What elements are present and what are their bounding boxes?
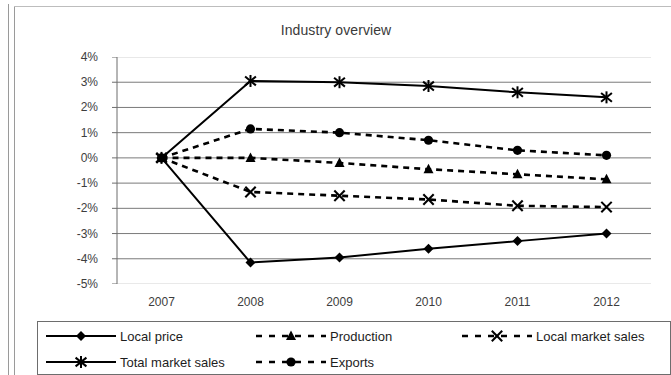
- page-border-top: [14, 6, 671, 7]
- y-axis-tick-label: 4%: [54, 50, 98, 64]
- plot-area: [101, 57, 651, 284]
- data-point-circle: [335, 128, 344, 137]
- data-point-circle: [602, 151, 611, 160]
- legend-key-circle-icon: [254, 351, 328, 373]
- x-axis-tick-label: 2008: [216, 295, 286, 309]
- x-axis-tick-label: 2007: [127, 295, 197, 309]
- legend-key-asterisk-icon: [44, 351, 118, 373]
- y-axis-tick-label: -4%: [54, 252, 98, 266]
- chart-plot-svg: [101, 57, 651, 284]
- legend-item-label: Exports: [330, 355, 374, 370]
- legend-item-total-market-sales[interactable]: Total market sales: [44, 349, 225, 375]
- legend-item-local-price[interactable]: Local price: [44, 323, 183, 349]
- legend-key-triangle-icon: [254, 325, 328, 347]
- data-point-circle: [286, 357, 295, 366]
- y-axis-tick-label: 3%: [54, 75, 98, 89]
- chart-legend: Local priceProductionLocal market sales …: [37, 321, 671, 375]
- legend-item-label: Local market sales: [536, 329, 644, 344]
- y-axis-tick-label: -2%: [54, 201, 98, 215]
- legend-item-production[interactable]: Production: [254, 323, 392, 349]
- legend-item-local-market-sales[interactable]: Local market sales: [460, 323, 644, 349]
- screenshot-page: Industry overview 4%3%2%1%0%-1%-2%-3%-4%…: [0, 0, 671, 375]
- x-axis-tick-label: 2012: [572, 295, 642, 309]
- series-exports: [157, 124, 611, 162]
- series-local-price: [157, 153, 612, 268]
- chart-container: Industry overview 4%3%2%1%0%-1%-2%-3%-4%…: [16, 8, 671, 375]
- legend-key-cross-icon: [460, 325, 534, 347]
- chart-title: Industry overview: [16, 22, 656, 38]
- y-axis-tick-label: 2%: [54, 100, 98, 114]
- data-point-circle: [246, 124, 255, 133]
- x-axis-tick-label: 2011: [483, 295, 553, 309]
- legend-item-label: Local price: [120, 329, 183, 344]
- axis-lines: [112, 57, 117, 284]
- series-line: [162, 158, 607, 263]
- y-axis-tick-label: -3%: [54, 227, 98, 241]
- legend-item-label: Total market sales: [120, 355, 225, 370]
- y-axis-tick-label: 0%: [54, 151, 98, 165]
- y-axis-tick-label: -1%: [54, 176, 98, 190]
- legend-key-diamond-icon: [44, 325, 118, 347]
- x-axis-tick-label: 2009: [305, 295, 375, 309]
- page-border-outer-left: [8, 4, 9, 375]
- data-point-cross: [601, 202, 611, 212]
- data-point-diamond: [602, 229, 612, 239]
- page-border-inner-left: [14, 6, 15, 375]
- data-point-diamond: [76, 331, 86, 341]
- x-axis-tick-labels: 200720082009201020112012: [101, 291, 651, 313]
- y-axis-tick-label: -5%: [54, 277, 98, 291]
- legend-row: Total market salesExports: [38, 349, 670, 375]
- legend-item-exports[interactable]: Exports: [254, 349, 374, 375]
- data-point-circle: [513, 146, 522, 155]
- legend-item-label: Production: [330, 329, 392, 344]
- series-production: [157, 152, 612, 183]
- y-axis-tick-label: 1%: [54, 126, 98, 140]
- data-point-cross: [245, 187, 255, 197]
- x-axis-tick-label: 2010: [394, 295, 464, 309]
- data-point-triangle: [424, 164, 434, 174]
- data-series-layer: [156, 75, 612, 268]
- series-line: [162, 129, 607, 158]
- series-line: [162, 81, 607, 158]
- series-local-market-sales: [156, 153, 611, 213]
- y-axis-tick-labels: 4%3%2%1%0%-1%-2%-3%-4%-5%: [52, 57, 98, 284]
- data-point-circle: [424, 136, 433, 145]
- series-line: [162, 158, 607, 179]
- data-point-diamond: [335, 253, 345, 263]
- data-point-diamond: [424, 244, 434, 254]
- legend-row: Local priceProductionLocal market sales: [38, 323, 670, 349]
- data-point-diamond: [513, 236, 523, 246]
